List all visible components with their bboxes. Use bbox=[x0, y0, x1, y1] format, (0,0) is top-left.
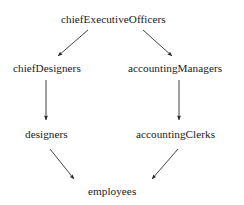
node-designers[interactable]: designers bbox=[25, 127, 68, 141]
edge-designers-to-employees bbox=[50, 149, 74, 179]
edge-ceo-to-accountingmanagers bbox=[143, 30, 172, 56]
node-chief-executive-officers[interactable]: chiefExecutiveOfficers bbox=[61, 12, 166, 26]
hierarchy-diagram: chiefExecutiveOfficers chiefDesigners ac… bbox=[0, 0, 244, 205]
node-accounting-clerks[interactable]: accountingClerks bbox=[136, 127, 215, 141]
edge-layer bbox=[0, 0, 244, 205]
node-accounting-managers[interactable]: accountingManagers bbox=[128, 61, 222, 75]
node-chief-designers[interactable]: chiefDesigners bbox=[13, 61, 81, 75]
edge-ceo-to-chiefdesigners bbox=[58, 30, 88, 56]
node-employees[interactable]: employees bbox=[88, 184, 136, 198]
edge-accountingclerks-to-employees bbox=[152, 149, 178, 179]
